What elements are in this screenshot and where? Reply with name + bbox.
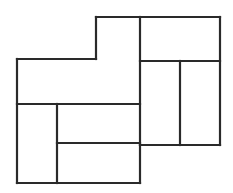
tile-right-outer-vertical-rectangle (180, 61, 220, 145)
tile-left-upper-horizontal-rectangle (17, 59, 96, 104)
tile-top-center-vertical-rectangle (96, 17, 140, 104)
tile-center-middle-horizontal-rectangle (57, 104, 140, 143)
tile-left-lower-vertical-rectangle (17, 104, 57, 183)
rectangle-tiling-figure (0, 0, 233, 193)
tile-bottom-center-horizontal-rectangle (57, 143, 140, 183)
tile-top-right-horizontal-rectangle (140, 17, 220, 61)
tile-right-inner-vertical-rectangle (140, 61, 180, 145)
